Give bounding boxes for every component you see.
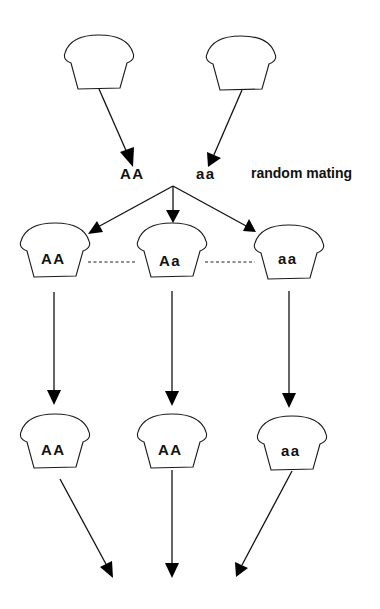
arrows-g2-onward <box>60 470 292 578</box>
arrow-parent-right-to-gamete <box>207 90 242 167</box>
g2-left-genotype: AA <box>41 441 66 458</box>
random-mating-label: random mating <box>251 165 352 181</box>
arrows-g1-to-g2 <box>47 291 296 408</box>
inbreeding-diagram: AA aa random mating AA Aa aa AA <box>0 0 380 609</box>
g2-center-genotype: AA <box>158 441 183 458</box>
parent-right-muffin <box>206 36 275 90</box>
parent-left-muffin <box>64 35 133 89</box>
g1-left-genotype: AA <box>41 250 66 267</box>
g1-right-genotype: aa <box>278 250 298 267</box>
g1-center-genotype: Aa <box>159 252 181 269</box>
arrow-parent-left-to-gamete <box>99 89 134 167</box>
gamete-left-genotype: AA <box>120 165 145 182</box>
g2-right-genotype: aa <box>281 442 301 459</box>
gamete-right-genotype: aa <box>196 165 216 182</box>
